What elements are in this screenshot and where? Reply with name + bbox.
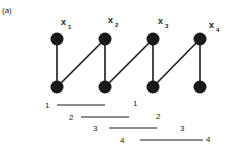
interval-4-left-label: 4 [120, 136, 125, 145]
interval-1-right-label: 1 [133, 99, 138, 108]
interval-3-left-label: 3 [93, 124, 98, 133]
interval-graph-diagram: (a) x1 x2 x3 x4 1 1 2 2 3 [0, 0, 228, 152]
node-y4 [194, 81, 207, 94]
figure-caption: (a) [2, 6, 12, 15]
edge-y1-x2 [57, 39, 105, 87]
node-y3 [147, 81, 160, 94]
label-x3: x3 [158, 16, 169, 29]
interval-lines [57, 105, 203, 140]
interval-2-right-label: 2 [156, 112, 161, 121]
bottom-nodes [51, 81, 207, 94]
edge-y3-x4 [153, 39, 200, 87]
node-y1 [51, 81, 64, 94]
edge-y2-x3 [105, 39, 153, 87]
interval-3-right-label: 3 [180, 124, 185, 133]
interval-labels: 1 1 2 2 3 3 4 4 [45, 99, 211, 145]
label-x1: x1 [61, 17, 72, 30]
graph-edges [57, 39, 200, 87]
node-x4 [194, 33, 207, 46]
top-nodes [51, 33, 207, 46]
node-x2 [99, 33, 112, 46]
interval-2-left-label: 2 [69, 113, 74, 122]
interval-4-right-label: 4 [206, 135, 211, 144]
node-y2 [99, 81, 112, 94]
node-x1 [51, 33, 64, 46]
label-x2: x2 [108, 15, 119, 28]
node-x3 [147, 33, 160, 46]
interval-1-left-label: 1 [45, 101, 50, 110]
label-x4: x4 [209, 20, 220, 33]
